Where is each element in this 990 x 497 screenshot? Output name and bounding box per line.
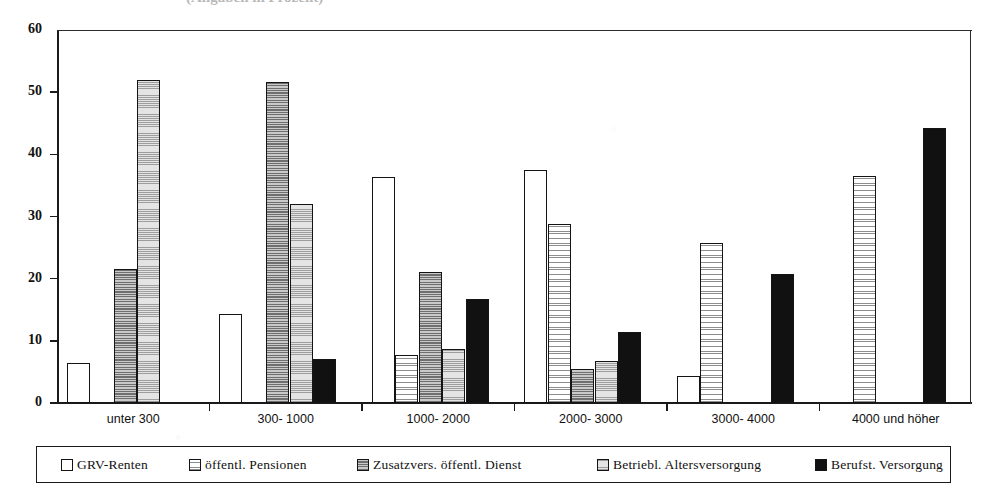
bar bbox=[372, 177, 395, 403]
legend-label: Zusatzvers. öffentl. Dienst bbox=[373, 457, 521, 473]
bar bbox=[290, 204, 313, 403]
legend-item[interactable]: Betriebl. Altersversorgung bbox=[597, 457, 761, 473]
y-axis-label: 0 bbox=[2, 394, 42, 410]
legend-label: Berufst. Versorgung bbox=[831, 457, 943, 473]
bar bbox=[419, 272, 442, 403]
chart-title-strip: (Angaben in Prozent) bbox=[0, 0, 990, 12]
x-axis-label: 1000- 2000 bbox=[362, 412, 515, 426]
bar bbox=[67, 363, 90, 403]
bar bbox=[114, 269, 137, 403]
legend-swatch-icon bbox=[61, 459, 73, 471]
x-axis-label: 2000- 3000 bbox=[515, 412, 668, 426]
legend-label: Betriebl. Altersversorgung bbox=[613, 457, 761, 473]
legend-item[interactable]: Zusatzvers. öffentl. Dienst bbox=[357, 457, 521, 473]
y-axis-tick bbox=[50, 340, 59, 342]
bar bbox=[137, 80, 160, 403]
legend-item[interactable]: öffentl. Pensionen bbox=[189, 457, 307, 473]
bar bbox=[548, 224, 571, 403]
y-axis-label: 20 bbox=[2, 270, 42, 286]
bar bbox=[266, 82, 289, 403]
y-axis-label: 60 bbox=[2, 21, 42, 37]
x-axis-tick bbox=[666, 403, 668, 411]
bar bbox=[771, 274, 794, 403]
y-axis-label: 30 bbox=[2, 208, 42, 224]
bar bbox=[923, 128, 946, 403]
y-axis-tick bbox=[50, 402, 59, 404]
chart-page: (Angaben in Prozent) 0102030405060 unter… bbox=[0, 0, 990, 497]
legend-item[interactable]: Berufst. Versorgung bbox=[815, 457, 943, 473]
bar bbox=[677, 376, 700, 403]
bar bbox=[313, 359, 336, 403]
x-axis-tick bbox=[361, 403, 363, 411]
y-axis-tick bbox=[50, 216, 59, 218]
x-axis-label: 3000- 4000 bbox=[667, 412, 820, 426]
bar bbox=[595, 361, 618, 403]
legend-swatch-icon bbox=[597, 459, 609, 471]
x-axis-tick bbox=[514, 403, 516, 411]
bar bbox=[466, 299, 489, 403]
y-axis-tick bbox=[50, 154, 59, 156]
plot-frame-right bbox=[970, 30, 971, 404]
y-axis-label: 10 bbox=[2, 332, 42, 348]
x-axis-label: 4000 und höher bbox=[820, 412, 973, 426]
plot-frame-top bbox=[57, 30, 972, 31]
legend-label: öffentl. Pensionen bbox=[205, 457, 307, 473]
x-axis-label: unter 300 bbox=[57, 412, 210, 426]
bar bbox=[524, 170, 547, 403]
x-axis-tick bbox=[209, 403, 211, 411]
bar bbox=[618, 332, 641, 403]
legend-item[interactable]: GRV-Renten bbox=[61, 457, 148, 473]
x-axis-label: 300- 1000 bbox=[210, 412, 363, 426]
legend-swatch-icon bbox=[357, 459, 369, 471]
bar bbox=[219, 314, 242, 403]
legend-label: GRV-Renten bbox=[77, 457, 148, 473]
legend-row: GRV-Rentenöffentl. PensionenZusatzvers. … bbox=[37, 447, 950, 482]
bar bbox=[571, 369, 594, 403]
y-axis-tick bbox=[50, 278, 59, 280]
chart-legend: GRV-Rentenöffentl. PensionenZusatzvers. … bbox=[36, 446, 951, 483]
bar bbox=[442, 349, 465, 403]
bar bbox=[395, 355, 418, 403]
bar bbox=[853, 176, 876, 403]
bar bbox=[700, 243, 723, 403]
y-axis-tick bbox=[50, 91, 59, 93]
y-axis-label: 50 bbox=[2, 83, 42, 99]
x-axis-tick bbox=[819, 403, 821, 411]
legend-swatch-icon bbox=[189, 459, 201, 471]
y-axis-label: 40 bbox=[2, 145, 42, 161]
chart-title: (Angaben in Prozent) bbox=[186, 0, 323, 6]
legend-swatch-icon bbox=[815, 459, 827, 471]
